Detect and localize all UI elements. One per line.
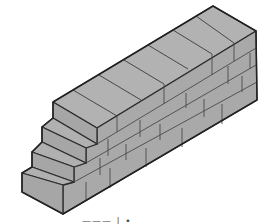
brick-wall-diagram <box>0 0 277 224</box>
figure-canvas: ——— ∣ • <box>0 0 277 224</box>
figure-caption: ——— ∣ • <box>82 216 132 224</box>
